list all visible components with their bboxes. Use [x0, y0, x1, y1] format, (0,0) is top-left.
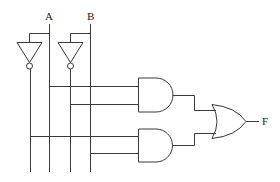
and-gate-1	[139, 78, 174, 112]
not-gate-a	[17, 34, 50, 70]
wire-and2-to-or	[173, 134, 217, 146]
output-label-f: F	[262, 115, 268, 127]
input-label-b: B	[87, 10, 94, 22]
or-gate	[212, 105, 246, 139]
and-gate-2	[139, 129, 173, 162]
not-gate-b	[58, 34, 91, 70]
wire-and1-to-or	[173, 96, 216, 111]
logic-circuit-diagram: A B F	[0, 0, 280, 182]
input-label-a: A	[45, 10, 53, 22]
